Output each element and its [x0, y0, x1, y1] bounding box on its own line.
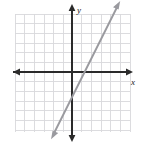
coordinate-plane-figure: y x — [0, 0, 144, 145]
x-axis-label: x — [130, 77, 135, 87]
graph-canvas: y x — [0, 0, 144, 145]
y-axis-label: y — [76, 5, 81, 15]
